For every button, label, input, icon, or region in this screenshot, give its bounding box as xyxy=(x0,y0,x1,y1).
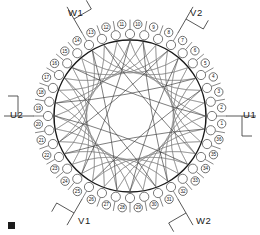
slot-number-text: 19 xyxy=(36,106,42,111)
coil-winding-lines xyxy=(55,41,205,191)
slot-leader-tick xyxy=(160,198,163,207)
slot-number-text: 16 xyxy=(52,61,58,66)
slot-conductor xyxy=(73,49,82,58)
slot-number-text: 26 xyxy=(89,197,95,202)
slot-leader-tick xyxy=(35,131,44,133)
slot-number-text: 15 xyxy=(62,49,68,54)
slot-leader-tick xyxy=(39,146,48,149)
slot-number-text: 23 xyxy=(52,166,58,171)
slot-conductor xyxy=(97,34,106,43)
terminal-tap-v2 xyxy=(186,213,193,225)
slot-conductor xyxy=(206,126,215,135)
coil-chord xyxy=(93,51,188,75)
slot-leader-tick xyxy=(39,83,48,86)
slot-conductor xyxy=(84,182,93,191)
slot-number-text: 32 xyxy=(180,189,186,194)
slot-number-text: 34 xyxy=(203,166,209,171)
terminal-lead-w2 xyxy=(178,19,208,33)
slot-leader-tick xyxy=(97,25,100,34)
slot-conductor xyxy=(140,31,149,40)
slot-number-text: 11 xyxy=(119,22,124,27)
slot-conductor xyxy=(48,83,57,92)
slot-conductor xyxy=(125,29,134,38)
slot-conductor xyxy=(73,174,82,183)
slot-conductor xyxy=(43,111,52,120)
slot-conductor xyxy=(63,59,72,68)
slot-number-text: 9 xyxy=(152,25,155,30)
slot-conductor xyxy=(54,152,63,161)
terminal-lead-v2 xyxy=(169,199,186,232)
slot-conductor xyxy=(202,83,211,92)
slot-leader-tick xyxy=(205,68,213,73)
coil-chord xyxy=(93,157,188,181)
coil-chord xyxy=(73,157,168,181)
slot-group: 1234567891011121314151617181920212223242… xyxy=(34,20,227,213)
slot-conductor xyxy=(196,70,205,79)
slot-conductor xyxy=(153,34,162,43)
slot-number-text: 21 xyxy=(39,138,45,143)
slot-conductor xyxy=(97,188,106,197)
slot-number-text: 14 xyxy=(74,38,80,43)
slot-leader-tick xyxy=(145,21,147,30)
slot-number-text: 18 xyxy=(39,90,45,95)
slot-number-text: 30 xyxy=(151,202,157,207)
coil-chord xyxy=(93,51,188,75)
coil-chord xyxy=(171,59,195,154)
slot-number-text: 4 xyxy=(212,74,215,79)
slot-number-text: 36 xyxy=(216,137,222,142)
slot-leader-tick xyxy=(205,159,213,164)
slot-leader-tick xyxy=(145,201,147,210)
slot-number-text: 22 xyxy=(44,153,50,158)
winding-drawing-canvas: 1234567891011121314151617181920212223242… xyxy=(0,0,260,235)
coil-chord xyxy=(65,59,89,154)
slot-conductor xyxy=(153,188,162,197)
slot-leader-tick xyxy=(212,83,221,86)
coil-chord xyxy=(171,59,195,154)
slot-leader-tick xyxy=(47,159,55,164)
slot-number-text: 5 xyxy=(204,61,207,66)
slot-number-text: 2 xyxy=(220,105,223,110)
slot-conductor xyxy=(178,49,187,58)
slot-conductor xyxy=(188,164,197,173)
slot-conductor xyxy=(48,139,57,148)
slot-number-text: 24 xyxy=(63,179,69,184)
slot-leader-tick xyxy=(97,198,100,207)
slot-leader-tick xyxy=(35,99,44,101)
coil-chord xyxy=(93,157,188,181)
slot-leader-tick xyxy=(173,33,178,41)
slot-conductor xyxy=(202,139,211,148)
slot-conductor xyxy=(166,40,175,49)
slot-leader-tick xyxy=(113,201,115,210)
slot-leader-tick xyxy=(113,21,115,30)
slot-conductor xyxy=(111,31,120,40)
slot-conductor xyxy=(45,97,54,106)
coil-chord xyxy=(65,79,89,174)
stator-winding-diagram: 1234567891011121314151617181920212223242… xyxy=(0,0,260,235)
terminal-label-u2: U2 xyxy=(10,109,23,120)
slot-conductor xyxy=(206,97,215,106)
slot-number-text: 6 xyxy=(194,48,197,53)
terminal-tap-w1 xyxy=(67,213,74,225)
slot-number-text: 31 xyxy=(167,197,173,202)
slot-leader-tick xyxy=(160,25,163,34)
terminal-label-v1: V1 xyxy=(78,215,91,226)
slot-number-text: 12 xyxy=(103,25,109,30)
slot-leader-tick xyxy=(47,68,55,73)
slot-conductor xyxy=(140,192,149,201)
slot-leader-tick xyxy=(82,33,87,41)
slot-leader-tick xyxy=(215,99,224,101)
slot-number-text: 25 xyxy=(75,189,81,194)
slot-number-text: 7 xyxy=(181,38,184,43)
coil-chord xyxy=(73,51,168,75)
slot-number-text: 28 xyxy=(120,205,126,210)
slot-number-text: 27 xyxy=(104,202,110,207)
slot-conductor xyxy=(188,59,197,68)
slot-number-text: 13 xyxy=(88,30,94,35)
slot-conductor xyxy=(178,174,187,183)
terminal-label-w2: W2 xyxy=(196,215,211,226)
slot-number-text: 3 xyxy=(218,89,221,94)
slot-number-text: 10 xyxy=(135,22,141,27)
slot-conductor xyxy=(111,192,120,201)
slot-leader-tick xyxy=(173,191,178,199)
slot-conductor xyxy=(45,126,54,135)
